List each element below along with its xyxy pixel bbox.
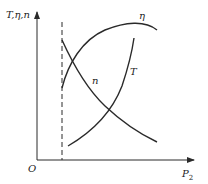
curve-eta [62, 23, 157, 88]
curve-T [68, 38, 134, 146]
characteristic-diagram: T,η,n O P2 n η T [0, 0, 208, 184]
curve-label-n: n [92, 75, 98, 86]
curve-label-T: T [130, 66, 138, 77]
diagram-svg: T,η,n O P2 n η T [0, 0, 208, 184]
y-axis-label: T,η,n [6, 9, 30, 20]
origin-label: O [28, 163, 36, 174]
x-axis-label: P2 [181, 168, 193, 182]
curve-label-eta: η [139, 10, 145, 21]
